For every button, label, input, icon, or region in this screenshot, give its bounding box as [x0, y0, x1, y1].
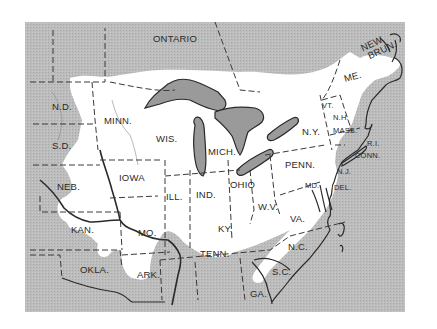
label-massachusetts: MASS. — [333, 126, 357, 135]
label-georgia: GA. — [250, 288, 267, 299]
label-minnesota: MINN. — [104, 115, 132, 126]
label-ohio: OHIO — [230, 179, 255, 190]
label-connecticut: CONN. — [355, 151, 380, 160]
label-arkansas: ARK. — [137, 269, 160, 280]
label-rhode-island: R.I. — [367, 139, 379, 148]
label-oklahoma: OKLA. — [80, 264, 109, 275]
label-north-carolina: N.C. — [288, 241, 308, 252]
label-maryland: MD. — [305, 181, 319, 190]
label-pennsylvania: PENN. — [285, 159, 315, 170]
label-nebraska: NEB. — [57, 181, 80, 192]
label-michigan: MICH. — [208, 146, 236, 157]
label-north-dakota: N.D. — [52, 101, 72, 112]
label-kansas: KAN. — [71, 224, 94, 235]
label-kentucky: KY. — [218, 223, 233, 234]
label-new-york: N.Y. — [302, 126, 320, 137]
label-delaware: DEL. — [334, 183, 351, 192]
label-illinois: ILL. — [166, 191, 183, 202]
label-iowa: IOWA — [119, 172, 145, 183]
label-tennessee: TENN. — [200, 248, 230, 259]
label-virginia: VA. — [290, 213, 305, 224]
label-new-hampshire: N.H. — [333, 113, 349, 122]
label-new-jersey: N.J. — [337, 167, 351, 176]
label-south-dakota: S.D. — [52, 140, 71, 151]
label-missouri: MO. — [138, 227, 157, 238]
label-indiana: IND. — [196, 189, 216, 200]
range-map: ONTARIO NEWBRUN. ME. VT. N.H. MASS. R.I.… — [0, 0, 437, 329]
label-wisconsin: WIS. — [156, 133, 177, 144]
label-south-carolina: S.C. — [272, 266, 291, 277]
label-ontario: ONTARIO — [153, 33, 197, 44]
label-west-virginia: W.V. — [258, 201, 278, 212]
label-vermont: VT. — [322, 101, 333, 110]
